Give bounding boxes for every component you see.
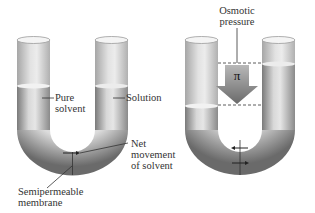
pi-symbol: π: [229, 70, 245, 81]
osmosis-diagram: Pure solvent Solution Net movement of so…: [0, 0, 315, 213]
pure-solvent-label: Pure solvent: [55, 92, 85, 114]
solution-label: Solution: [126, 92, 162, 103]
right-u-tube: [185, 37, 295, 176]
semipermeable-membrane-label: Semipermeable membrane: [18, 186, 83, 208]
osmotic-pressure-label: Osmotic pressure: [215, 5, 259, 27]
net-movement-label: Net movement of solvent: [131, 138, 175, 171]
